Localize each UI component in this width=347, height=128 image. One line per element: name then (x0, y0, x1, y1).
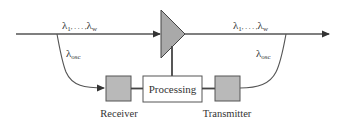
osc-drop-label: λosc (66, 47, 81, 61)
input-wavelength-label: λ1, . . . ,λw (62, 19, 98, 33)
osc-add-path (240, 34, 286, 88)
osc-add-label: λosc (256, 47, 271, 61)
transmitter-caption: Transmitter (203, 108, 252, 119)
processing-label: Processing (149, 83, 197, 95)
transmitter-module (215, 76, 240, 101)
osc-drop-path (57, 34, 104, 88)
receiver-caption: Receiver (100, 108, 138, 119)
output-wavelength-label: λ1, . . . ,λw (233, 19, 269, 33)
amplifier-icon (161, 10, 185, 58)
diagram-canvas: Processing Receiver Transmitter λ1, . . … (0, 0, 347, 128)
receiver-module (106, 76, 131, 101)
